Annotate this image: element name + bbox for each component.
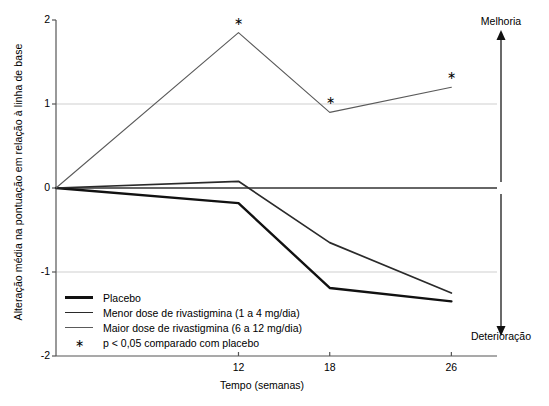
up-arrow-head [497, 30, 506, 40]
improvement-annotation: Melhoria [446, 15, 549, 27]
x-tick-label-12: 12 [218, 361, 258, 373]
legend-label-placebo: Placebo [103, 292, 141, 304]
chart-figure: Alteração média na pontuação em relação … [0, 0, 549, 406]
direction-arrows [497, 30, 506, 336]
y-tick-label-neg2: -2 [26, 349, 50, 361]
asterisk-icon: ∗ [64, 338, 94, 348]
legend-label-higher-dose: Maior dose de rivastigmina (6 a 12 mg/di… [103, 322, 302, 334]
chart-legend: Placebo Menor dose de rivastigmina (1 a … [64, 290, 302, 350]
significance-star: ∗ [234, 16, 243, 27]
legend-swatch-line-thick [64, 296, 94, 298]
legend-swatch-line-medium [64, 312, 94, 314]
legend-item-significance: ∗ p < 0,05 comparado com placebo [64, 335, 302, 350]
y-tick-label-0: 0 [26, 181, 50, 193]
deterioration-annotation: Deterioração [446, 330, 549, 342]
data-series-group [56, 33, 451, 302]
series-line-1 [56, 181, 451, 293]
x-axis-title: Tempo (semanas) [220, 379, 304, 391]
legend-item-higher-dose: Maior dose de rivastigmina (6 a 12 mg/di… [64, 320, 302, 335]
legend-item-lower-dose: Menor dose de rivastigmina (1 a 4 mg/dia… [64, 305, 302, 320]
significance-star: ∗ [447, 70, 456, 81]
y-axis-title: Alteração média na pontuação em relação … [12, 12, 24, 352]
y-tick-label-2: 2 [26, 13, 50, 25]
significance-star: ∗ [326, 95, 335, 106]
legend-label-lower-dose: Menor dose de rivastigmina (1 a 4 mg/dia… [103, 307, 300, 319]
y-tick-label-1: 1 [26, 97, 50, 109]
x-tick-label-26: 26 [431, 361, 471, 373]
series-line-0 [56, 188, 451, 301]
legend-label-significance: p < 0,05 comparado com placebo [103, 337, 259, 349]
series-line-2 [56, 33, 451, 188]
y-tick-label-neg1: -1 [26, 265, 50, 277]
x-tick-label-18: 18 [310, 361, 350, 373]
legend-item-placebo: Placebo [64, 290, 302, 305]
gridlines [56, 104, 497, 272]
legend-swatch-line-thin [64, 327, 94, 328]
